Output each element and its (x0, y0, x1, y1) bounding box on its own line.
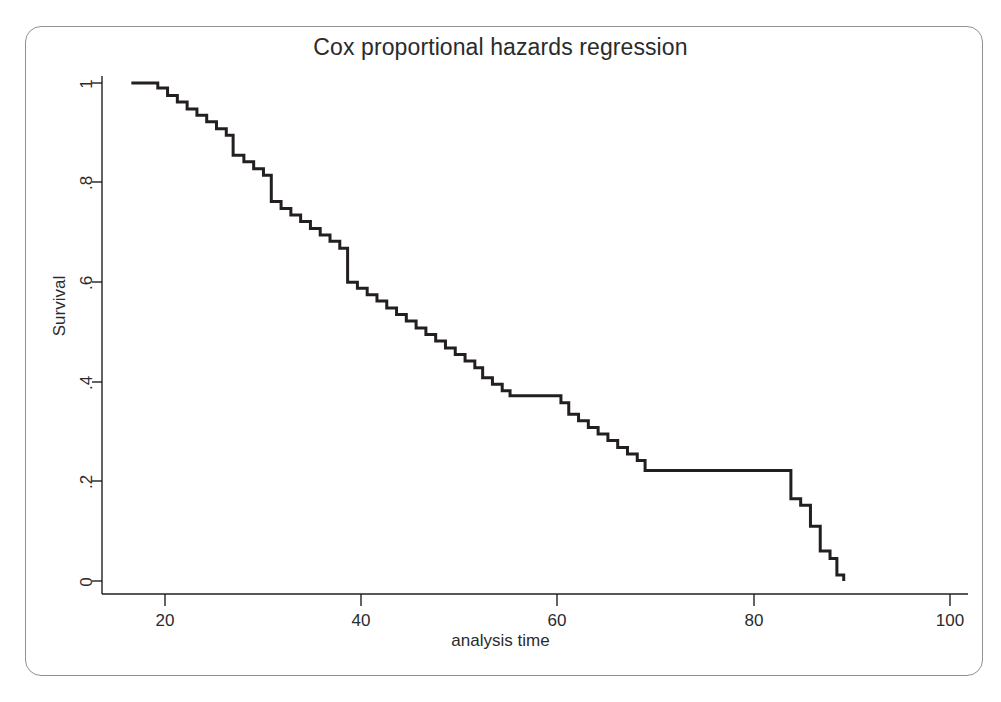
survival-step-line (131, 83, 843, 581)
y-tick-label-0: 0 (77, 565, 97, 599)
x-tick-label-100: 100 (927, 611, 973, 631)
x-tick-label-40: 40 (338, 611, 384, 631)
x-axis-ticks (165, 594, 950, 606)
figure-root: Cox proportional hazards regression Surv… (0, 0, 1001, 702)
survival-plot (0, 0, 1001, 702)
y-tick-label-06: .6 (77, 266, 97, 300)
x-tick-label-80: 80 (731, 611, 777, 631)
x-axis-label: analysis time (0, 631, 1001, 651)
y-tick-label-02: .2 (77, 465, 97, 499)
y-tick-label-1: 1 (77, 67, 97, 101)
y-axis-label: Survival (50, 236, 70, 376)
x-tick-label-20: 20 (142, 611, 188, 631)
y-tick-label-04: .4 (77, 366, 97, 400)
y-tick-label-08: .8 (77, 166, 97, 200)
x-tick-label-60: 60 (534, 611, 580, 631)
y-axis-ticks (92, 83, 102, 581)
